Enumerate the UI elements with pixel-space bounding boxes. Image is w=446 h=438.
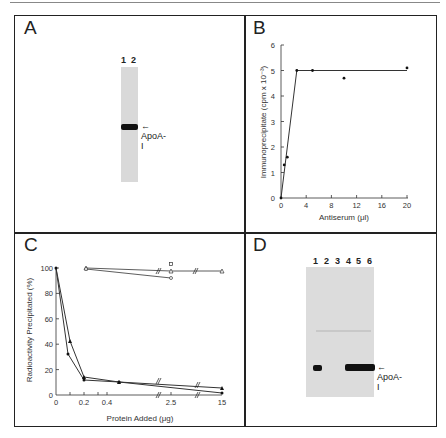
svg-text:80: 80: [45, 289, 53, 298]
svg-text:3: 3: [271, 118, 275, 127]
lane-number: 4: [346, 256, 351, 266]
lane-number: 5: [356, 256, 361, 266]
apoa1-band: [121, 124, 138, 130]
lane-number: 2: [131, 55, 136, 65]
svg-text:16: 16: [378, 201, 386, 210]
panel-a-label: A: [24, 17, 37, 39]
svg-text:6: 6: [271, 41, 275, 50]
gel-strip: [306, 267, 374, 397]
apoa1-band-lanes-4-6: [345, 364, 375, 371]
svg-text:20: 20: [403, 201, 411, 210]
svg-text:15: 15: [218, 398, 226, 407]
svg-text:0: 0: [279, 201, 283, 210]
svg-text:5: 5: [271, 67, 275, 76]
svg-text:0.4: 0.4: [102, 398, 112, 407]
svg-text:100: 100: [40, 264, 53, 273]
lane-number: 1: [313, 256, 318, 266]
lane-number: 1: [121, 55, 126, 65]
lane-number: 2: [324, 256, 329, 266]
apoa1-band-lane-1: [313, 365, 322, 371]
panel-b-xlabel: Antiserum (μl): [319, 213, 369, 222]
svg-text:40: 40: [45, 340, 53, 349]
svg-text:2: 2: [271, 143, 275, 152]
svg-text:60: 60: [45, 315, 53, 324]
svg-text:0: 0: [271, 194, 275, 203]
panel-d-label: D: [253, 234, 267, 256]
svg-text:0: 0: [49, 391, 53, 400]
svg-text:4: 4: [271, 92, 275, 101]
band-label: ← ApoA-I: [141, 121, 166, 151]
lane-number: 3: [335, 256, 340, 266]
svg-text:12: 12: [352, 201, 360, 210]
svg-text:20: 20: [45, 366, 53, 375]
svg-text:1: 1: [271, 169, 275, 178]
panel-c-ylabel: Radioactivity Precipitated (%): [25, 278, 34, 382]
svg-text:0: 0: [54, 398, 58, 407]
panel-b-ylabel: Immunoprecipitate (cpm x 10⁻³): [259, 66, 268, 178]
lane-number: 6: [367, 256, 372, 266]
top-rule: [10, 2, 440, 3]
panel-c-xlabel: Protein Added (μg): [107, 414, 174, 423]
svg-text:0.2: 0.2: [79, 398, 89, 407]
svg-text:2.5: 2.5: [166, 398, 176, 407]
svg-text:8: 8: [329, 201, 333, 210]
panel-b-chart: 6 5 4 3 2 1 0 0 4 8 12 16 20: [245, 16, 437, 232]
band-label: ← ApoA-I: [377, 362, 402, 392]
svg-text:4: 4: [304, 201, 308, 210]
faint-band: [316, 330, 371, 332]
panel-c-chart: 100 80 60 40 20 0 0 0.2 0.4 2.5 15: [15, 234, 244, 427]
